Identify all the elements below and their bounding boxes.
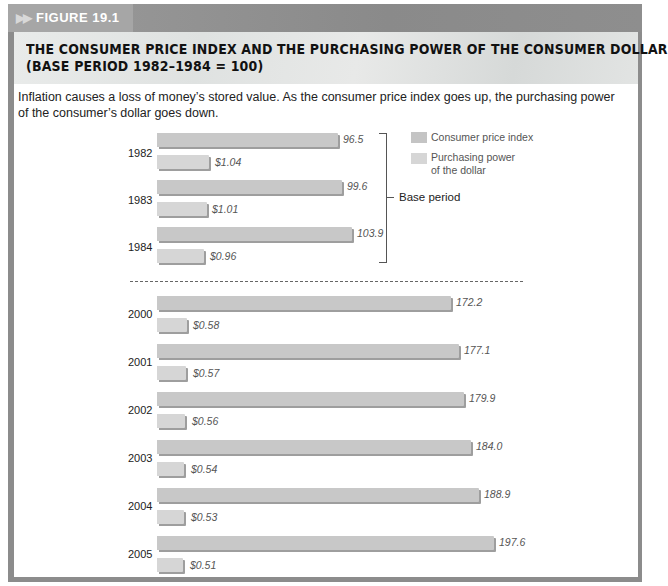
legend-label-pp-line1: Purchasing power: [431, 151, 515, 164]
cpi-value: 172.2: [456, 296, 482, 308]
pp-value: $0.54: [191, 463, 217, 475]
year-label: 2005: [128, 548, 152, 560]
legend-label-pp-line2: of the dollar: [431, 164, 515, 177]
pp-value: $0.53: [191, 511, 217, 523]
pp-bar: [157, 558, 183, 572]
title-line-1: THE CONSUMER PRICE INDEX AND THE PURCHAS…: [26, 41, 668, 58]
cpi-bar: [157, 392, 464, 406]
legend-label-pp: Purchasing power of the dollar: [431, 151, 515, 177]
frame-right-border: [638, 32, 642, 582]
cpi-value: 188.9: [484, 488, 510, 500]
pp-value: $0.51: [190, 559, 216, 571]
pp-value: $1.01: [212, 203, 238, 215]
pp-bar: [157, 249, 204, 263]
year-label: 2000: [128, 308, 152, 320]
cpi-bar: [157, 180, 342, 194]
cpi-value: 103.9: [357, 227, 383, 239]
cpi-bar: [157, 440, 471, 454]
pp-bar: [157, 510, 184, 524]
base-period-bracket-tick: [386, 197, 394, 198]
year-label: 2001: [128, 356, 152, 368]
year-label: 1983: [128, 194, 152, 206]
pp-bar: [157, 155, 209, 169]
pp-value: $0.56: [192, 415, 218, 427]
pp-bar: [157, 366, 186, 380]
pp-value: $0.57: [193, 367, 219, 379]
year-label: 2002: [128, 404, 152, 416]
year-label: 2003: [128, 452, 152, 464]
frame-bottom-border: [8, 577, 642, 582]
cpi-value: 177.1: [464, 344, 490, 356]
cpi-bar: [157, 133, 338, 147]
pp-bar: [157, 202, 207, 216]
base-period-label: Base period: [399, 191, 460, 203]
figure-number: FIGURE 19.1: [36, 10, 120, 25]
double-arrow-icon: ▶▶: [16, 11, 30, 25]
pp-bar: [157, 462, 184, 476]
period-divider: [130, 281, 523, 282]
cpi-value: 96.5: [343, 133, 363, 145]
cpi-bar: [157, 344, 459, 358]
legend-label-cpi: Consumer price index: [431, 131, 533, 144]
pp-bar: [157, 414, 185, 428]
frame-left-border: [8, 32, 14, 582]
year-label: 2004: [128, 500, 152, 512]
cpi-bar: [157, 227, 352, 241]
title-line-2: (BASE PERIOD 1982–1984 = 100): [26, 58, 668, 75]
cpi-value: 184.0: [476, 440, 502, 452]
pp-value: $1.04: [215, 156, 241, 168]
cpi-bar: [157, 296, 451, 310]
cpi-value: 197.6: [499, 536, 525, 548]
figure-caption: Inflation causes a loss of money’s store…: [18, 89, 618, 121]
cpi-bar: [157, 536, 494, 550]
base-period-bracket: [379, 133, 387, 263]
title-band: THE CONSUMER PRICE INDEX AND THE PURCHAS…: [14, 32, 638, 84]
cpi-value: 99.6: [347, 180, 367, 192]
pp-value: $0.58: [193, 319, 219, 331]
legend-swatch-pp: [411, 153, 427, 164]
figure-title: THE CONSUMER PRICE INDEX AND THE PURCHAS…: [26, 41, 668, 75]
figure-tag: ▶▶FIGURE 19.1: [8, 4, 133, 32]
pp-value: $0.96: [210, 250, 236, 262]
pp-bar: [157, 318, 187, 332]
cpi-value: 179.9: [469, 392, 495, 404]
legend-swatch-cpi: [411, 132, 427, 143]
cpi-bar: [157, 488, 479, 502]
year-label: 1982: [128, 147, 152, 159]
year-label: 1984: [128, 241, 152, 253]
